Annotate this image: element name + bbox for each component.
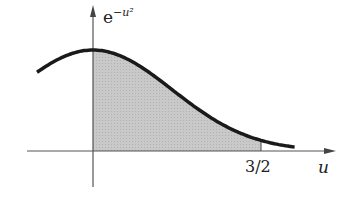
- gaussian-area-diagram: [0, 0, 351, 199]
- tick-label-3-2: 3/2: [245, 157, 271, 176]
- y-axis-arrow-icon: [90, 5, 96, 17]
- x-axis-arrow-icon: [324, 148, 336, 154]
- shaded-area: [93, 50, 261, 151]
- x-axis-label: u: [318, 157, 329, 177]
- y-axis-label: e−u²: [103, 6, 134, 27]
